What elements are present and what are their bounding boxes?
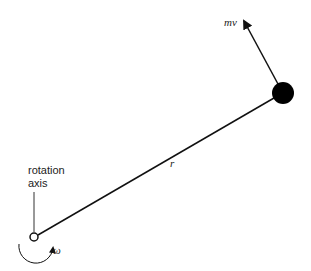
angular-velocity-arc: [19, 244, 53, 263]
angular-momentum-diagram: rotation axis r mv ω: [0, 0, 311, 271]
momentum-label: mv: [224, 16, 237, 28]
momentum-arrow: [244, 21, 278, 84]
rotation-axis-label-line2: axis: [28, 177, 48, 189]
pivot-point: [30, 233, 38, 241]
angular-velocity-label: ω: [53, 244, 61, 256]
radius-label: r: [170, 157, 175, 169]
radius-line: [38, 98, 274, 235]
point-mass: [272, 82, 294, 104]
rotation-axis-label-line1: rotation: [28, 164, 65, 176]
